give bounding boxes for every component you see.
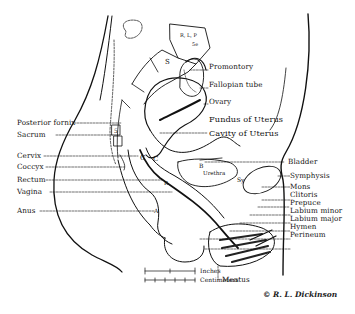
label-coccyx: Coccyx bbox=[17, 163, 44, 171]
label-vagina: Vagina bbox=[17, 188, 42, 196]
inner-label-vertebra-sub: 5e bbox=[192, 41, 198, 47]
label-perineum: Perineum bbox=[290, 231, 326, 239]
inner-label-c1: C bbox=[140, 154, 145, 162]
inner-label-sy: Sy bbox=[237, 176, 245, 183]
inner-label-b: B bbox=[199, 162, 203, 169]
inner-label-urethra: Urethra bbox=[203, 170, 225, 176]
inner-label-s1: S bbox=[165, 58, 170, 66]
label-promontory: Promontory bbox=[209, 63, 253, 71]
inner-label-vertebra: R, L, P bbox=[180, 32, 197, 38]
scale-label-centimeters: Centimeters bbox=[200, 276, 239, 284]
label-rectum: Rectum bbox=[17, 176, 46, 184]
inner-label-s5: 5 bbox=[114, 127, 118, 134]
label-cavity-of-uterus: Cavity of Uterus bbox=[209, 129, 279, 137]
label-sacrum: Sacrum bbox=[17, 131, 46, 139]
inner-label-a: A bbox=[154, 207, 158, 214]
label-bladder: Bladder bbox=[288, 158, 317, 166]
pelvic-anatomy-diagram: Posterior fornix Sacrum Cervix Coccyx Re… bbox=[0, 0, 355, 314]
label-anus: Anus bbox=[17, 207, 36, 215]
label-fundus-of-uterus: Fundus of Uterus bbox=[209, 115, 283, 123]
label-cervix: Cervix bbox=[17, 152, 41, 160]
label-fallopian-tube: Fallopian tube bbox=[209, 81, 263, 89]
label-symphysis: Symphysis bbox=[290, 172, 330, 180]
label-posterior-fornix: Posterior fornix bbox=[17, 119, 76, 127]
scale-label-inches: Inches bbox=[200, 267, 221, 275]
inner-label-c2: C bbox=[153, 155, 158, 163]
credit-text: © R. L. Dickinson bbox=[263, 290, 337, 299]
label-ovary: Ovary bbox=[209, 98, 231, 106]
inner-label-r: R bbox=[164, 180, 168, 186]
